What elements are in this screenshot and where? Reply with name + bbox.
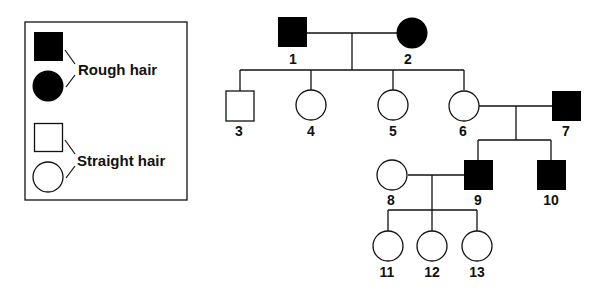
- pedigree-diagram: Rough hair Straight hair 1 2: [0, 0, 601, 298]
- legend: Rough hair Straight hair: [25, 22, 187, 200]
- individual-label: 12: [424, 264, 440, 280]
- affected-male-symbol: [278, 17, 307, 47]
- individual-label: 1: [289, 51, 297, 67]
- individual-9: 9: [464, 160, 493, 208]
- individual-label: 13: [469, 264, 485, 280]
- legend-unaffected-female-symbol: [33, 162, 63, 192]
- legend-affected-male-symbol: [34, 32, 63, 61]
- unaffected-male-symbol: [226, 91, 254, 121]
- unaffected-female-symbol: [417, 231, 447, 261]
- individual-label: 8: [387, 192, 395, 208]
- affected-male-symbol: [537, 160, 566, 190]
- individual-8: 8: [377, 160, 407, 208]
- unaffected-female-symbol: [462, 231, 492, 261]
- individual-11: 11: [373, 231, 403, 280]
- affected-male-symbol: [464, 160, 493, 190]
- individual-6: 6: [449, 91, 479, 139]
- individual-label: 5: [389, 123, 397, 139]
- individual-label: 11: [380, 264, 395, 280]
- individual-10: 10: [537, 160, 566, 208]
- individual-label: 4: [307, 123, 315, 139]
- unaffected-female-symbol: [377, 160, 407, 190]
- individual-13: 13: [462, 231, 492, 280]
- affected-female-symbol: [397, 18, 428, 49]
- individual-5: 5: [378, 90, 408, 139]
- individual-1: 1: [278, 17, 307, 67]
- individual-label: 6: [459, 123, 467, 139]
- individual-label: 3: [235, 123, 243, 139]
- unaffected-female-symbol: [373, 231, 403, 261]
- legend-rough-hair-label: Rough hair: [78, 61, 157, 78]
- legend-straight-hair-label: Straight hair: [77, 152, 166, 169]
- individual-12: 12: [417, 231, 447, 280]
- individual-label: 2: [404, 51, 412, 67]
- legend-unaffected-male-symbol: [35, 124, 63, 152]
- unaffected-female-symbol: [449, 91, 479, 121]
- affected-male-symbol: [552, 91, 581, 121]
- unaffected-female-symbol: [378, 90, 408, 120]
- individual-label: 10: [543, 192, 559, 208]
- individual-3: 3: [226, 91, 254, 139]
- individual-2: 2: [397, 18, 428, 68]
- individual-4: 4: [296, 90, 326, 139]
- individual-label: 9: [474, 192, 482, 208]
- individual-7: 7: [552, 91, 581, 139]
- individual-label: 7: [562, 123, 570, 139]
- legend-affected-female-symbol: [33, 71, 64, 102]
- unaffected-female-symbol: [296, 90, 326, 120]
